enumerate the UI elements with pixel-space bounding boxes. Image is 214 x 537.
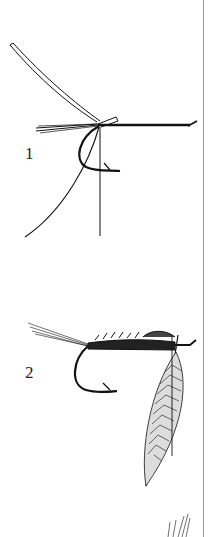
step-1-figure <box>10 43 197 237</box>
step-2-figure <box>28 323 196 486</box>
grass-sketch <box>168 514 190 537</box>
fly-tying-drawing <box>0 0 214 537</box>
